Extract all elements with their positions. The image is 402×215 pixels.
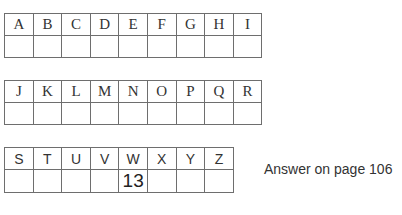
cell-letter-r: R — [233, 81, 262, 103]
cell-value-c — [62, 36, 91, 58]
cell-value-s — [5, 170, 34, 193]
cell-letter-o: O — [147, 81, 176, 103]
cell-letter-m: M — [90, 81, 119, 103]
cell-value-r — [233, 103, 262, 125]
cell-letter-z: Z — [205, 148, 234, 170]
cell-letter-t: T — [33, 148, 62, 170]
cell-letter-n: N — [119, 81, 148, 103]
value-row: 13 — [5, 170, 234, 193]
cell-letter-g: G — [176, 14, 205, 36]
cell-value-z — [205, 170, 234, 193]
cell-value-g — [176, 36, 205, 58]
cell-value-y — [176, 170, 205, 193]
cell-letter-p: P — [176, 81, 205, 103]
cell-value-j — [5, 103, 34, 125]
cell-value-f — [147, 36, 176, 58]
cell-value-k — [33, 103, 62, 125]
letter-row: A B C D E F G H I — [5, 14, 262, 36]
cell-letter-d: D — [90, 14, 119, 36]
cell-value-e — [119, 36, 148, 58]
cell-letter-l: L — [62, 81, 91, 103]
cut-off-heading — [60, 0, 240, 3]
cell-letter-y: Y — [176, 148, 205, 170]
cell-value-h — [205, 36, 234, 58]
cell-value-v — [90, 170, 119, 193]
cell-value-x — [147, 170, 176, 193]
cell-letter-e: E — [119, 14, 148, 36]
cell-value-d — [90, 36, 119, 58]
letter-row: J K L M N O P Q R — [5, 81, 262, 103]
cell-value-q — [205, 103, 234, 125]
cell-letter-b: B — [33, 14, 62, 36]
cell-value-p — [176, 103, 205, 125]
cell-value-m — [90, 103, 119, 125]
cell-letter-j: J — [5, 81, 34, 103]
cell-value-b — [33, 36, 62, 58]
cell-letter-k: K — [33, 81, 62, 103]
cell-value-l — [62, 103, 91, 125]
cell-letter-a: A — [5, 14, 34, 36]
cell-value-a — [5, 36, 34, 58]
cell-value-w: 13 — [119, 170, 148, 193]
cell-letter-v: V — [90, 148, 119, 170]
cell-value-i — [233, 36, 262, 58]
value-row — [5, 36, 262, 58]
cell-letter-w: W — [119, 148, 148, 170]
letter-grid-a-i: A B C D E F G H I — [4, 13, 262, 58]
cell-value-o — [147, 103, 176, 125]
cell-letter-x: X — [147, 148, 176, 170]
value-row — [5, 103, 262, 125]
cell-letter-q: Q — [205, 81, 234, 103]
cell-letter-h: H — [205, 14, 234, 36]
cell-value-n — [119, 103, 148, 125]
cell-value-t — [33, 170, 62, 193]
cell-letter-f: F — [147, 14, 176, 36]
letter-row: S T U V W X Y Z — [5, 148, 234, 170]
cell-letter-c: C — [62, 14, 91, 36]
cell-letter-s: S — [5, 148, 34, 170]
cell-value-u — [62, 170, 91, 193]
letter-grid-j-r: J K L M N O P Q R — [4, 80, 262, 125]
cell-letter-u: U — [62, 148, 91, 170]
cell-letter-i: I — [233, 14, 262, 36]
answer-reference: Answer on page 106 — [264, 161, 392, 177]
letter-grid-s-z: S T U V W X Y Z 13 — [4, 147, 234, 193]
